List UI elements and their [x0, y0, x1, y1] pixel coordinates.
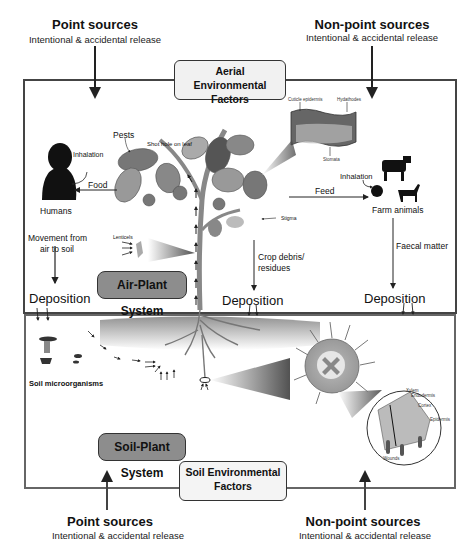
deposition-left-label: Deposition — [29, 291, 90, 306]
food-label: Food — [88, 180, 107, 190]
pests-label: Pests — [113, 130, 134, 140]
top-non-point-sources-subtitle: Intentional & accidental release — [302, 32, 442, 43]
aerial-factors-line2: Factors — [179, 92, 281, 106]
movement-air-soil-label-line2: air to soil — [40, 244, 74, 254]
soil-factors-line2: Factors — [184, 479, 282, 493]
bottom-non-point-sources-subtitle: Intentional & accidental release — [295, 530, 435, 541]
soil-microorganisms-label: Soil microorganisms — [29, 379, 103, 388]
deposition-right-label: Deposition — [364, 291, 425, 306]
soil-environmental-factors-box: Soil Environmental Factors — [179, 461, 287, 501]
inhalation-animal-label: Inhalation — [340, 172, 373, 181]
stigma-label: Stigma — [281, 215, 297, 221]
endodermis-label: Endodermis — [411, 393, 435, 398]
shot-hole-label: Shot hole on leaf — [147, 141, 192, 147]
feed-label: Feed — [315, 186, 334, 196]
movement-air-soil-label-line1: Movement from — [28, 233, 87, 243]
faecal-matter-label: Faecal matter — [396, 241, 448, 251]
air-plant-system-box: Air-Plant System — [97, 271, 187, 299]
top-point-sources-subtitle: Intentional & accidental release — [25, 34, 165, 45]
soil-plant-system-box: Soil-Plant System — [98, 433, 186, 461]
deposition-center-label: Deposition — [222, 293, 283, 308]
human-icon — [42, 143, 76, 200]
farm-animals-label: Farm animals — [372, 205, 423, 215]
top-point-sources-title: Point sources — [45, 17, 145, 32]
wounds-label: Wounds — [383, 456, 399, 461]
bottom-point-sources-title: Point sources — [60, 514, 160, 529]
crop-debris-label-line1: Crop debris/ — [258, 252, 304, 262]
top-non-point-sources-title: Non-point sources — [312, 17, 432, 32]
aerial-environmental-factors-box: Aerial Environmental Factors — [174, 60, 286, 100]
cortex-label: Cortex — [418, 403, 431, 408]
aerial-factors-line1: Aerial Environmental — [179, 64, 281, 92]
cuticle-epidermis-label: Cuticle epidermis — [288, 97, 323, 102]
humans-label: Humans — [40, 206, 72, 216]
hydathodes-label: Hydathodes — [337, 97, 361, 102]
bottom-non-point-sources-title: Non-point sources — [303, 514, 423, 529]
inhalation-human-label: Inhalation — [73, 151, 103, 158]
bottom-point-sources-subtitle: Intentional & accidental release — [48, 530, 188, 541]
stomata-label: Stomata — [323, 157, 340, 162]
soil-factors-line1: Soil Environmental — [184, 465, 282, 479]
epidermis-label: Epidermis — [430, 417, 450, 422]
crop-debris-label-line2: residues — [258, 263, 290, 273]
lenticels-label: Lenticels — [113, 234, 133, 240]
farm-animal-icons — [371, 156, 420, 202]
